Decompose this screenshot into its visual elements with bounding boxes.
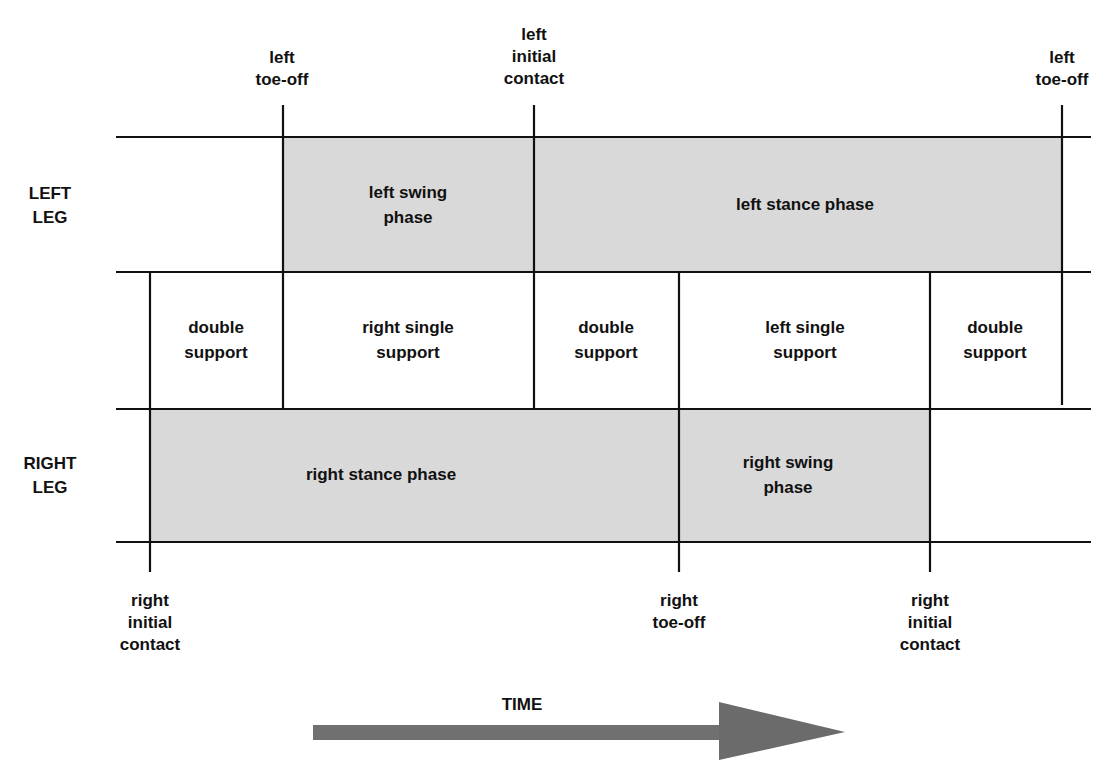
event-label-left-toe-off-1: left toe-off: [256, 47, 309, 91]
phase-label-left-stance: left stance phase: [736, 192, 874, 217]
phase-label-double-support-3: double support: [963, 315, 1026, 365]
diagram-grid: [0, 0, 1114, 772]
event-label-right-toe-off: right toe-off: [653, 590, 706, 634]
event-label-left-initial-contact: left initial contact: [504, 24, 564, 90]
time-arrow-icon: [313, 702, 845, 760]
gait-cycle-diagram: LEFT LEG RIGHT LEG left toe-off left ini…: [0, 0, 1114, 772]
phase-label-double-support-1: double support: [184, 315, 247, 365]
phase-label-left-swing: left swing phase: [369, 180, 447, 230]
row-label-right-leg: RIGHT LEG: [24, 452, 77, 500]
phase-label-right-single-support: right single support: [362, 315, 454, 365]
event-label-right-initial-contact-1: right initial contact: [120, 590, 180, 656]
phase-label-right-swing: right swing phase: [743, 450, 834, 500]
event-label-left-toe-off-2: left toe-off: [1036, 47, 1089, 91]
time-axis-label: TIME: [502, 695, 543, 715]
event-label-right-initial-contact-2: right initial contact: [900, 590, 960, 656]
row-label-left-leg: LEFT LEG: [29, 182, 72, 230]
phase-label-right-stance: right stance phase: [306, 462, 456, 487]
phase-label-double-support-2: double support: [574, 315, 637, 365]
phase-label-left-single-support: left single support: [765, 315, 844, 365]
